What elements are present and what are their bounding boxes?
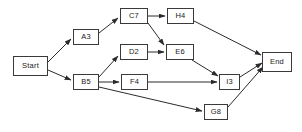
graph-node-label: F4 <box>130 78 139 86</box>
graph-node-b5[interactable]: B5 <box>73 74 99 90</box>
edge-c7-to-e6 <box>148 23 164 45</box>
graph-node-label: D2 <box>129 48 139 56</box>
edge-b5-to-g8 <box>99 87 202 111</box>
graph-node-g8[interactable]: G8 <box>204 104 228 120</box>
graph-node-label: B5 <box>81 78 91 86</box>
graph-node-d2[interactable]: D2 <box>120 44 148 60</box>
edge-i3-to-end <box>240 63 262 77</box>
graph-node-label: End <box>270 58 284 66</box>
flow-diagram: StartA3B5C7D2F4H4E6I3G8End <box>0 0 302 132</box>
graph-node-i3[interactable]: I3 <box>219 74 240 90</box>
edge-a3-to-c7 <box>99 18 118 33</box>
edge-e6-to-i3 <box>192 60 218 76</box>
graph-node-end[interactable]: End <box>262 52 292 72</box>
graph-node-label: A3 <box>81 33 91 41</box>
graph-node-label: H4 <box>176 12 186 20</box>
graph-node-label: Start <box>22 62 39 70</box>
graph-node-label: I3 <box>226 78 233 86</box>
edge-start-to-b5 <box>48 70 71 80</box>
graph-node-label: G8 <box>211 108 221 116</box>
graph-node-label: E6 <box>175 48 185 56</box>
graph-node-f4[interactable]: F4 <box>121 74 148 90</box>
edge-h4-to-end <box>194 21 261 55</box>
graph-node-h4[interactable]: H4 <box>167 8 194 24</box>
edge-b5-to-d2 <box>99 56 118 77</box>
graph-node-label: C7 <box>129 12 139 20</box>
graph-node-c7[interactable]: C7 <box>120 8 148 24</box>
graph-node-a3[interactable]: A3 <box>73 29 99 45</box>
graph-node-start[interactable]: Start <box>13 56 48 76</box>
edge-start-to-a3 <box>48 39 71 62</box>
graph-node-e6[interactable]: E6 <box>166 44 194 60</box>
